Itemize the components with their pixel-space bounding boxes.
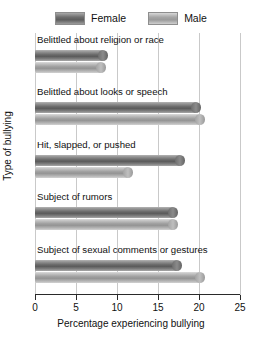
category-label: Hit, slapped, or pushed bbox=[37, 138, 136, 151]
bar-end-cap bbox=[98, 50, 108, 61]
bar-group: Belittled about looks or speech bbox=[35, 85, 240, 137]
chart-legend: Female Male bbox=[0, 10, 262, 26]
bar-end-cap bbox=[195, 272, 205, 283]
bar-end-cap bbox=[96, 62, 106, 73]
x-tick-label-0: 0 bbox=[32, 302, 38, 313]
x-tick-25 bbox=[240, 295, 241, 300]
category-label: Belittled about looks or speech bbox=[37, 85, 168, 98]
bar-end-cap bbox=[172, 260, 182, 271]
bar-female bbox=[35, 50, 108, 61]
bar-body bbox=[35, 50, 103, 61]
bar-female bbox=[35, 260, 182, 271]
bar-body bbox=[35, 219, 173, 230]
y-axis-title: Type of bullying bbox=[2, 86, 14, 206]
bar-body bbox=[35, 167, 128, 178]
bullying-bar-chart: Female Male Belittled about religion or … bbox=[0, 0, 262, 339]
legend-swatch-male-icon bbox=[148, 12, 178, 25]
bar-body bbox=[35, 155, 180, 166]
x-tick-label-25: 25 bbox=[234, 302, 245, 313]
bar-end-cap bbox=[168, 207, 178, 218]
bar-group: Subject of sexual comments or gestures bbox=[35, 243, 240, 295]
bar-female bbox=[35, 207, 178, 218]
bar-body bbox=[35, 260, 177, 271]
legend-entry-male: Male bbox=[148, 12, 207, 25]
bar-body bbox=[35, 207, 173, 218]
bar-body bbox=[35, 272, 200, 283]
bar-male bbox=[35, 62, 106, 73]
bar-end-cap bbox=[168, 219, 178, 230]
legend-swatch-female-icon bbox=[55, 12, 85, 25]
bar-male bbox=[35, 114, 205, 125]
category-label: Subject of rumors bbox=[37, 190, 112, 203]
x-tick-label-15: 15 bbox=[152, 302, 163, 313]
bar-body bbox=[35, 102, 196, 113]
gridline-25 bbox=[240, 33, 241, 295]
bar-end-cap bbox=[195, 114, 205, 125]
category-label: Subject of sexual comments or gestures bbox=[37, 243, 208, 256]
bar-female bbox=[35, 155, 185, 166]
legend-label-male: Male bbox=[184, 13, 207, 24]
plot-area: Belittled about religion or raceBelittle… bbox=[35, 33, 240, 295]
bar-end-cap bbox=[191, 102, 201, 113]
legend-label-female: Female bbox=[91, 13, 126, 24]
x-tick-label-5: 5 bbox=[73, 302, 79, 313]
x-tick-label-20: 20 bbox=[193, 302, 204, 313]
bar-body bbox=[35, 114, 200, 125]
x-axis-tick-labels: 0510152025 bbox=[35, 295, 240, 315]
x-axis-title: Percentage experiencing bullying bbox=[0, 318, 262, 330]
bar-male bbox=[35, 219, 178, 230]
bar-end-cap bbox=[175, 155, 185, 166]
bar-female bbox=[35, 102, 201, 113]
bar-end-cap bbox=[123, 167, 133, 178]
bar-body bbox=[35, 62, 101, 73]
bar-group: Hit, slapped, or pushed bbox=[35, 138, 240, 190]
category-label: Belittled about religion or race bbox=[37, 33, 164, 46]
bar-male bbox=[35, 272, 205, 283]
legend-entry-female: Female bbox=[55, 12, 126, 25]
bar-male bbox=[35, 167, 133, 178]
bar-group: Subject of rumors bbox=[35, 190, 240, 242]
x-tick-label-10: 10 bbox=[111, 302, 122, 313]
bar-group: Belittled about religion or race bbox=[35, 33, 240, 85]
